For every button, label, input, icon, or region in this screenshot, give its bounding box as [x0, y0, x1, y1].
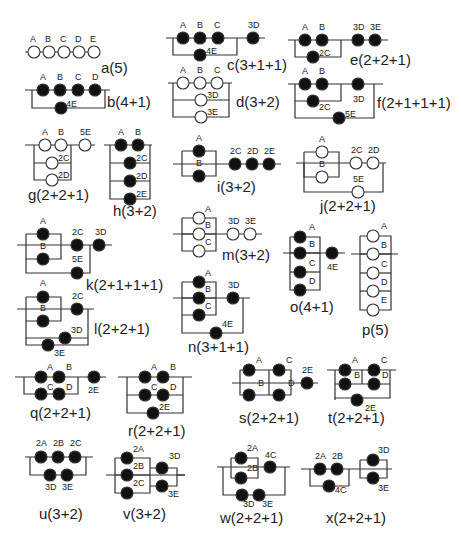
node-label: 3E — [54, 348, 65, 358]
node-label: 2A — [315, 451, 326, 461]
filled-node-icon — [299, 78, 311, 90]
filled-node-icon — [352, 34, 364, 46]
node-label: D — [382, 370, 389, 380]
filled-node-icon — [212, 32, 224, 44]
hollow-node-icon — [58, 46, 70, 58]
hollow-node-icon — [367, 248, 379, 260]
filled-node-icon — [53, 371, 65, 383]
hollow-node-icon — [28, 46, 40, 58]
node-label: A — [352, 355, 358, 365]
filled-node-icon — [367, 454, 379, 466]
node-label: A — [302, 22, 308, 32]
node-label: A — [42, 127, 48, 137]
filled-node-icon — [194, 32, 206, 44]
filled-node-icon — [37, 315, 49, 327]
node-label: 3D — [353, 22, 365, 32]
node-label: 3E — [370, 22, 381, 32]
hollow-node-icon — [211, 77, 223, 89]
filled-node-icon — [294, 231, 306, 243]
node-label: C — [205, 237, 212, 247]
node-label: 2A — [36, 438, 47, 448]
node-label: 3E — [378, 483, 389, 493]
node-label: 3D — [207, 90, 219, 100]
node-label: C — [286, 355, 293, 365]
node-label: B — [319, 159, 325, 169]
node-label: 3D — [243, 499, 255, 509]
hollow-node-icon — [195, 94, 207, 106]
node-label: 3D — [378, 445, 390, 455]
hollow-node-icon — [367, 285, 379, 297]
panel-caption: g(2+2+1) — [28, 186, 89, 203]
node-label: 2C — [72, 227, 84, 237]
node-label: 2D — [58, 170, 70, 180]
filled-node-icon — [42, 339, 54, 351]
node-label: B — [197, 65, 203, 75]
node-label: B — [309, 239, 315, 249]
filled-node-icon — [352, 78, 364, 90]
node-label: 4C — [265, 450, 277, 460]
node-label: 2E — [136, 189, 147, 199]
filled-node-icon — [53, 388, 65, 400]
node-label: C — [381, 355, 388, 365]
node-label: 2B — [332, 451, 343, 461]
filled-node-icon — [156, 480, 168, 492]
filled-node-icon — [115, 139, 127, 151]
filled-node-icon — [147, 407, 159, 419]
node-label: A — [151, 362, 157, 372]
node-label: 3E — [245, 216, 256, 226]
filled-node-icon — [331, 463, 343, 475]
node-label: B — [354, 370, 360, 380]
filled-node-icon — [323, 480, 335, 492]
filled-node-icon — [294, 247, 306, 259]
node-label: C — [47, 382, 54, 392]
panel-caption: a(5) — [101, 59, 128, 76]
node-label: E — [381, 295, 387, 305]
panel-caption: m(3+2) — [222, 246, 270, 263]
node-label: C — [205, 301, 212, 311]
filled-node-icon — [194, 49, 206, 61]
filled-node-icon — [157, 371, 169, 383]
node-label: 3E — [62, 482, 73, 492]
filled-node-icon — [227, 292, 239, 304]
node-label: 2C — [351, 145, 363, 155]
panel-caption: e(2+2+1) — [350, 51, 411, 68]
hollow-node-icon — [193, 228, 205, 240]
node-label: A — [180, 65, 186, 75]
filled-node-icon — [243, 389, 255, 401]
node-label: 2C — [72, 291, 84, 301]
filled-node-icon — [69, 451, 81, 463]
filled-node-icon — [139, 371, 151, 383]
figure-canvas: ABCDEa(5)ABCD4Eb(4+1)ABC3D4Ec(3+1+1)ABC3… — [0, 0, 461, 544]
filled-node-icon — [246, 158, 258, 170]
filled-node-icon — [307, 95, 319, 107]
filled-node-icon — [316, 78, 328, 90]
node-label: 2C — [58, 153, 70, 163]
panel-caption: t(2+2+1) — [328, 409, 385, 426]
node-label: B — [319, 66, 325, 76]
panel-caption: q(2+2+1) — [30, 404, 91, 421]
node-label: A — [47, 362, 53, 372]
node-label: B — [258, 378, 264, 388]
filled-node-icon — [132, 139, 144, 151]
node-label: C — [381, 259, 388, 269]
node-label: D — [170, 382, 177, 392]
filled-node-icon — [71, 267, 83, 279]
node-label: 2C — [230, 146, 242, 156]
node-label: A — [302, 66, 308, 76]
node-label: 3E — [207, 107, 218, 117]
node-label: B — [319, 22, 325, 32]
node-label: C — [60, 34, 67, 44]
hollow-node-icon — [316, 146, 328, 158]
node-label: A — [381, 221, 387, 231]
filled-node-icon — [35, 388, 47, 400]
node-label: B — [58, 127, 64, 137]
node-label: 2E — [264, 146, 275, 156]
panel-caption: f(2+1+1+1) — [377, 94, 451, 111]
panel-caption: v(3+2) — [123, 505, 166, 522]
node-label: 4C — [335, 485, 347, 495]
node-label: D — [66, 382, 73, 392]
node-label: A — [40, 216, 46, 226]
node-label: 4E — [66, 99, 77, 109]
node-label: D — [288, 378, 295, 388]
filled-node-icon — [339, 378, 351, 390]
